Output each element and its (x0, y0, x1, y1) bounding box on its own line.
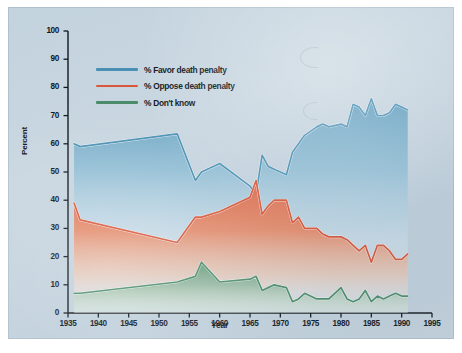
x-tick-label: 1970 (267, 319, 293, 328)
x-tick-label: 1980 (328, 319, 354, 328)
y-tick-label: 80 (39, 82, 59, 91)
chart-legend: % Favor death penalty% Oppose death pena… (96, 65, 235, 107)
y-tick-label: 10 (39, 280, 59, 289)
y-tick-label: 70 (39, 111, 59, 120)
legend-item-1[interactable]: % Favor death penalty (96, 65, 235, 74)
x-axis-title: Year (211, 320, 228, 330)
y-tick-label: 60 (39, 139, 59, 148)
chart-panel: 0102030405060708090100 19351940194519501… (8, 7, 454, 339)
legend-label: % Favor death penalty (144, 65, 227, 75)
y-tick-label: 40 (39, 195, 59, 204)
legend-label: % Oppose death penalty (144, 81, 235, 91)
y-tick-label: 0 (39, 308, 59, 317)
x-tick-label: 1990 (389, 319, 415, 328)
chart-series (74, 99, 408, 313)
x-tick-label: 1935 (55, 319, 81, 328)
x-tick-label: 1965 (237, 319, 263, 328)
y-tick-label: 90 (39, 54, 59, 63)
legend-swatch-line-icon (96, 101, 138, 104)
legend-item-3[interactable]: % Don't know (96, 98, 235, 107)
x-tick-label: 1950 (146, 319, 172, 328)
area-chart: 0102030405060708090100 19351940194519501… (8, 7, 454, 339)
x-tick-label: 1955 (176, 319, 202, 328)
y-tick-label: 50 (39, 167, 59, 176)
chart-page: 0102030405060708090100 19351940194519501… (0, 0, 462, 353)
y-axis-title: Percent (20, 127, 29, 155)
x-tick-label: 1940 (85, 319, 111, 328)
legend-item-2[interactable]: % Oppose death penalty (96, 82, 235, 91)
y-tick-label: 100 (39, 26, 59, 35)
legend-label: % Don't know (144, 98, 195, 108)
x-tick-label: 1985 (358, 319, 384, 328)
y-tick-label: 20 (39, 252, 59, 261)
legend-swatch-line-icon (96, 85, 138, 88)
x-tick-label: 1945 (116, 319, 142, 328)
x-tick-label: 1975 (298, 319, 324, 328)
chart-plot-area (8, 7, 454, 339)
x-tick-label: 1995 (419, 319, 445, 328)
legend-swatch-line-icon (96, 68, 138, 71)
y-tick-label: 30 (39, 223, 59, 232)
